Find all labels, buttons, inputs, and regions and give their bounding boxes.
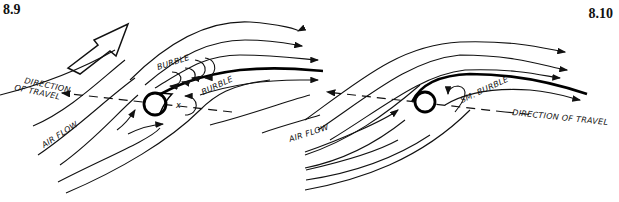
streamline <box>117 110 135 130</box>
figure-8-9: x DIRECTION OF TRAVEL BURBLE BURBLE AIR … <box>0 22 323 193</box>
label-air-flow: AIR FLOW <box>287 122 331 144</box>
burble-curl <box>185 96 196 115</box>
streamline <box>128 124 163 134</box>
airflow-diagram: x DIRECTION OF TRAVEL BURBLE BURBLE AIR … <box>0 0 619 202</box>
label-direction-of-travel: DIRECTION OF TRAVEL <box>512 108 609 127</box>
streamline <box>210 95 310 125</box>
streamline <box>306 140 398 170</box>
body-circle <box>144 93 166 115</box>
figure-8-10: SM. BURBLE DIRECTION OF TRAVEL AIR FLOW <box>287 42 609 190</box>
flow-direction-arrow-icon <box>68 24 128 74</box>
burble-curl <box>192 60 205 78</box>
label-air-flow: AIR FLOW <box>39 119 80 150</box>
vortex-mark: x <box>175 101 181 110</box>
label-burble-top: BURBLE <box>156 53 191 72</box>
body-circle <box>415 92 435 112</box>
